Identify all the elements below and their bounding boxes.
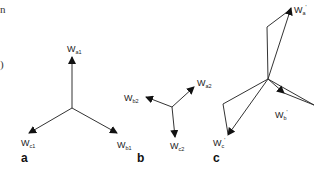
panel-label-a: a bbox=[21, 151, 28, 165]
vector-wa2-arrow bbox=[172, 87, 194, 107]
cropped-text-fragment: n bbox=[0, 3, 6, 15]
component-line bbox=[223, 79, 268, 104]
panel-a: Wa1 Wc1 Wb1 a bbox=[21, 44, 132, 165]
panel-c: Wa' Wb' Wc' c bbox=[213, 4, 314, 165]
label-wa1: Wa1 bbox=[67, 44, 82, 55]
panel-label-b: b bbox=[137, 151, 144, 165]
label-wa-prime: Wa' bbox=[294, 4, 307, 16]
vector-wb2-arrow bbox=[146, 97, 172, 107]
vector-wa-prime-arrow bbox=[268, 8, 291, 79]
label-wb1: Wb1 bbox=[117, 140, 132, 151]
vector-wc1-arrow bbox=[29, 108, 72, 133]
phasor-diagram: n ) Wa1 Wc1 Wb1 a Wa2 Wb2 Wc2 b Wa' Wb bbox=[0, 0, 332, 173]
vector-wb1-arrow bbox=[72, 108, 117, 133]
label-wc-prime: Wc' bbox=[213, 137, 225, 149]
vector-wb-prime-arrow bbox=[268, 79, 284, 93]
vector-wc-prime-arrow bbox=[228, 79, 268, 135]
label-wb2: Wb2 bbox=[124, 93, 139, 104]
label-wa2: Wa2 bbox=[197, 78, 212, 89]
component-line bbox=[284, 93, 314, 105]
cropped-text-fragment: ) bbox=[0, 58, 4, 71]
label-wc2: Wc2 bbox=[170, 141, 184, 152]
panel-b: Wa2 Wb2 Wc2 b bbox=[124, 78, 212, 165]
label-wb-prime: Wb' bbox=[275, 109, 288, 121]
vector-wc2-arrow bbox=[172, 107, 175, 137]
component-line bbox=[267, 27, 268, 79]
panel-label-c: c bbox=[213, 151, 220, 165]
component-line bbox=[223, 104, 228, 134]
component-line bbox=[268, 79, 314, 105]
label-wc1: Wc1 bbox=[21, 138, 35, 149]
